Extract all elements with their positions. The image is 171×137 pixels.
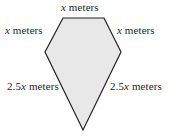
side-label-top: x meters [61,1,99,13]
pentagon-kite-polygon [45,18,121,130]
side-label-lower-right-coefficient: 2.5 [110,80,124,92]
side-label-lower-left-unit: meters [26,80,59,92]
polygon-shape [0,0,171,137]
side-label-upper-left: x meters [5,24,43,36]
side-label-upper-right: x meters [117,24,155,36]
side-label-lower-left: 2.5x meters [7,80,59,92]
side-label-lower-left-coefficient: 2.5 [7,80,21,92]
side-label-lower-right: 2.5x meters [110,80,162,92]
geometry-figure: x meters x meters x meters 2.5x meters 2… [0,0,171,137]
side-label-upper-left-unit: meters [10,24,43,36]
side-label-upper-right-unit: meters [122,24,155,36]
side-label-top-unit: meters [66,1,99,13]
side-label-lower-right-unit: meters [129,80,162,92]
